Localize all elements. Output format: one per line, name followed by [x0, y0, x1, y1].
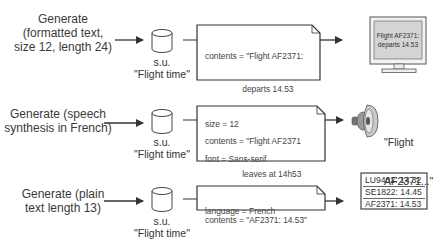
label-line: (formatted text, — [8, 26, 118, 40]
label-line: synthesis in French) — [4, 121, 112, 135]
label-line: size 12, length 24) — [8, 40, 118, 54]
label-line: Generate (speech — [4, 107, 112, 121]
store-label-1: s.u. "Flight time" — [130, 56, 194, 80]
speech-line: "Flight — [384, 136, 433, 149]
store-type: s.u. — [130, 136, 194, 148]
list-item: SE1822: 14.45 — [363, 187, 425, 199]
list-item: AF2371: 14.53 — [363, 199, 425, 210]
generate-label-2: Generate (speech synthesis in French) — [4, 107, 112, 135]
label-line: Generate (plain — [18, 187, 108, 201]
speaker-icon — [352, 105, 378, 137]
store-name: "Flight time" — [130, 148, 194, 160]
note-content-3: contents = "AF2371: 14.53" — [205, 193, 307, 237]
database-cylinder-icon — [152, 30, 172, 53]
store-type: s.u. — [130, 56, 194, 68]
list-display: LU9402: 14.32 SE1822: 14.45 AF2371: 14.5… — [363, 175, 425, 210]
store-label-2: s.u. "Flight time" — [130, 136, 194, 160]
store-name: "Flight time" — [130, 227, 194, 239]
label-line: text length 13) — [18, 201, 108, 215]
database-cylinder-icon — [152, 110, 172, 134]
generate-label-3: Generate (plain text length 13) — [18, 187, 108, 215]
store-type: s.u. — [130, 215, 194, 227]
note-line: contents = "Flight AF2371 — [205, 136, 301, 147]
label-line: Generate — [8, 12, 118, 26]
screen-line: Flight AF2371: — [374, 31, 422, 40]
note-line: departs 14.53 — [205, 84, 303, 95]
note-line: contents = "Flight AF2371: — [205, 51, 303, 62]
screen-line: departs 14.53 — [374, 40, 422, 49]
generate-label-1: Generate (formatted text, size 12, lengt… — [8, 12, 118, 54]
store-name: "Flight time" — [130, 68, 194, 80]
note-line: contents = "AF2371: 14.53" — [205, 215, 307, 226]
store-label-3: s.u. "Flight time" — [130, 215, 194, 239]
note-line: leaves at 14h53 — [205, 169, 301, 180]
list-item: LU9402: 14.32 — [363, 175, 425, 187]
monitor-screen-text: Flight AF2371: departs 14.53 — [374, 31, 422, 49]
database-cylinder-icon — [152, 188, 172, 212]
